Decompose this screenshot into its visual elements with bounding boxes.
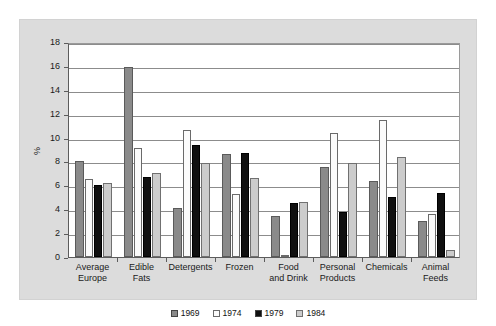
y-axis-tick-label: 8 — [38, 156, 60, 166]
bar-1974 — [232, 194, 241, 257]
legend-item[interactable]: 1969 — [171, 308, 200, 318]
y-axis-tick-label: 18 — [38, 37, 60, 47]
legend-label: 1969 — [181, 308, 200, 318]
y-axis-tick-label: 4 — [38, 204, 60, 214]
y-axis-title: % — [32, 147, 42, 155]
y-axis-tick-label: 2 — [38, 228, 60, 238]
y-axis-tick — [64, 258, 68, 259]
legend-label: 1974 — [223, 308, 242, 318]
bar-1984 — [201, 163, 210, 257]
bar-1979 — [388, 197, 397, 257]
legend-item[interactable]: 1979 — [255, 308, 284, 318]
bar-1974 — [330, 133, 339, 257]
bar-1979 — [339, 212, 348, 257]
bar-1974 — [379, 120, 388, 257]
legend-swatch-icon — [213, 310, 220, 317]
legend-swatch-icon — [296, 310, 303, 317]
bar-1974 — [281, 255, 290, 257]
y-axis-tick-label: 12 — [38, 109, 60, 119]
bar-1969 — [75, 161, 84, 257]
y-axis-tick-label: 10 — [38, 133, 60, 143]
plot-area — [68, 43, 460, 258]
bar-1969 — [418, 221, 427, 257]
bar-1979 — [437, 193, 446, 258]
legend-swatch-icon — [255, 310, 262, 317]
legend-swatch-icon — [171, 310, 178, 317]
legend-item[interactable]: 1984 — [296, 308, 325, 318]
bar-1979 — [192, 145, 201, 257]
bar-1979 — [143, 177, 152, 257]
bar-1969 — [369, 181, 378, 257]
y-axis-tick-label: 16 — [38, 61, 60, 71]
bar-1984 — [250, 178, 259, 257]
legend-label: 1979 — [265, 308, 284, 318]
chart-legend: 1969197419791984 — [0, 308, 496, 318]
bar-1969 — [173, 208, 182, 257]
bar-1969 — [222, 154, 231, 257]
bar-1984 — [152, 173, 161, 257]
chart-screenshot: % 024681012141618 Average EuropeEdible F… — [0, 0, 496, 326]
legend-item[interactable]: 1974 — [213, 308, 242, 318]
bar-1969 — [124, 67, 133, 257]
legend-label: 1984 — [306, 308, 325, 318]
y-axis-tick-label: 0 — [38, 252, 60, 262]
y-axis-tick-label: 14 — [38, 85, 60, 95]
bar-1984 — [397, 157, 406, 257]
bar-1984 — [446, 250, 455, 257]
page-header-text — [396, 0, 496, 7]
bar-1969 — [271, 216, 280, 257]
bar-1979 — [290, 203, 299, 257]
y-axis-tick-label: 6 — [38, 180, 60, 190]
gridline — [69, 44, 459, 45]
bar-1979 — [94, 185, 103, 257]
bar-1984 — [348, 163, 357, 257]
chart-panel: % 024681012141618 Average EuropeEdible F… — [19, 19, 477, 300]
bar-1974 — [85, 179, 94, 257]
bar-1974 — [428, 214, 437, 257]
bar-1969 — [320, 167, 329, 257]
bar-1984 — [103, 183, 112, 257]
bar-1984 — [299, 202, 308, 257]
bar-1974 — [183, 130, 192, 257]
x-axis-label: Animal Feeds — [403, 262, 468, 284]
bar-1979 — [241, 153, 250, 257]
bar-1974 — [134, 148, 143, 257]
